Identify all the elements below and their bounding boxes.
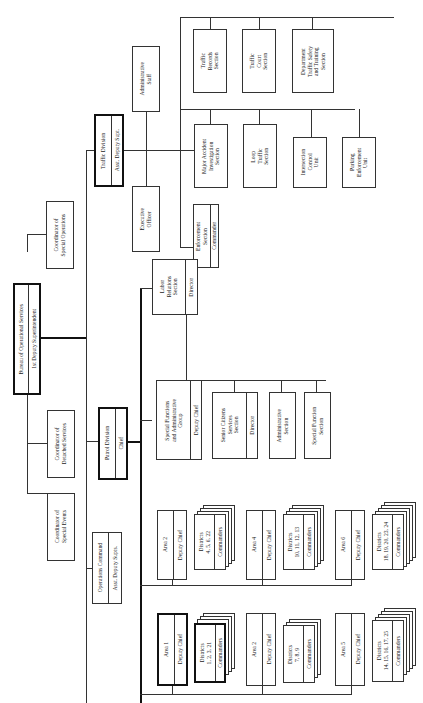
coordinator-detached-services-box: Coordinator of Detached Services (47, 410, 75, 478)
major-accident-investigation-box: Major Accident Investigation Section (194, 124, 228, 188)
connector (140, 288, 142, 703)
connector (312, 17, 313, 29)
connector (41, 337, 86, 339)
commanders-label: Commanders (217, 527, 224, 557)
traffic-division-subtitle: Asst. Deputy Supt. (114, 129, 121, 171)
districts-box: Districts 10, 11, 12, 13 Commanders (283, 514, 315, 570)
connector (234, 380, 235, 392)
districts-label: Districts 14, 15, 16, 17, 25 (376, 631, 389, 670)
commanders-label: Commanders (395, 636, 402, 666)
connector (359, 109, 360, 137)
executive-officer-box: Executive Officer (132, 186, 160, 252)
area-name: Area 1 (163, 642, 170, 657)
major-accident-investigation-label: Major Accident Investigation Section (201, 139, 221, 174)
districts-box: Districts 18, 19, 20, 23, 24 Commanders (372, 514, 404, 570)
traffic-division-title: Traffic Division (100, 133, 107, 169)
traffic-safety-training-section-label: Department Traffic Safety and Training S… (300, 46, 326, 77)
connector (262, 686, 263, 694)
labor-relations-title: Labor Relations Section (159, 276, 179, 297)
enforcement-section-subtitle: Commander (211, 222, 218, 250)
area-name: Area 4 (251, 537, 258, 552)
area-box: Area 5 Deputy Chief (335, 613, 365, 686)
administrative-staff-label: Administrative Staff (139, 62, 152, 96)
connector (124, 150, 204, 151)
connector (210, 109, 211, 124)
area-name: Area 5 (340, 642, 347, 657)
coordinator-special-events-label: Coordinator of Special Events (54, 510, 67, 543)
area-name: Area 2 (162, 537, 169, 552)
districts-box: Districts 1, 2, 3, 21 Commanders (194, 623, 226, 683)
connector (259, 17, 260, 29)
area-box: Area 2 Deputy Chief (157, 510, 187, 580)
traffic-records-section-box: Traffic Records Section (193, 29, 227, 93)
area-box: Area 4 Deputy Chief (246, 510, 276, 580)
senior-citizens-subtitle: Director (249, 416, 256, 435)
traffic-division-box: Traffic Division Asst. Deputy Supt. (94, 114, 124, 187)
connector (351, 686, 352, 694)
connector (172, 686, 173, 694)
administrative-staff-box: Administrative Staff (132, 46, 160, 112)
executive-officer-label: Executive Officer (139, 208, 152, 230)
connector (27, 443, 47, 444)
root-title: Bureau of Operational Services (18, 304, 25, 374)
connector (86, 150, 94, 151)
special-functions-group-box: Special Functions and Administrative Gro… (156, 380, 202, 460)
traffic-records-section-label: Traffic Records Section (200, 52, 220, 70)
operations-command-title: Operations Command (97, 543, 104, 592)
districts-label: Districts 4, 5, 6, 22 (198, 531, 211, 553)
parking-enforcement-unit-label: Parking Enforcement Unit (349, 148, 369, 177)
connector (140, 694, 352, 695)
loop-traffic-section-box: Loop Traffic Section (243, 124, 277, 188)
districts-label: Districts 7, 8, 9 (287, 645, 300, 664)
districts-box: Districts 7, 8, 9 Commanders (283, 625, 315, 683)
area-head: Deputy Chief (355, 530, 362, 560)
area-box: Area 6 Deputy Chief (335, 510, 365, 580)
connector (210, 17, 211, 29)
connector (180, 109, 355, 110)
area-box: Area 1 Deputy Chief (157, 613, 188, 686)
senior-citizens-title: Senior Citizens Services Section (220, 408, 240, 442)
patrol-division-subtitle: Chief (118, 437, 125, 449)
intersection-control-unit-box: Intersection Control Unit (293, 137, 327, 188)
bureau-of-operational-services-box: Bureau of Operational Services 1st Deput… (13, 283, 41, 395)
connector (27, 493, 47, 494)
coordinator-special-events-box: Coordinator of Special Events (47, 493, 75, 561)
connector (140, 420, 152, 421)
area-head: Deputy Chief (177, 530, 184, 560)
root-subtitle: 1st Deputy Superintendent (31, 309, 38, 369)
intersection-control-unit-label: Intersection Control Unit (300, 149, 320, 175)
area-head: Deputy Chief (266, 634, 273, 664)
senior-citizens-services-section-box: Senior Citizens Services Section Directo… (212, 392, 258, 459)
connector (186, 380, 326, 381)
connector (281, 380, 282, 392)
special-functions-group-subtitle: Deputy Chief (193, 405, 200, 435)
area-head: Deputy Chief (266, 530, 273, 560)
districts-label: Districts 10, 11, 12, 13 (287, 527, 300, 558)
connector (140, 585, 352, 586)
special-function-section-label: Special Function Section (311, 407, 324, 445)
traffic-court-section-box: Traffic Court Section (242, 29, 276, 93)
area-name: Area 6 (340, 537, 347, 552)
special-function-section-box: Special Function Section (304, 392, 331, 459)
connector (180, 17, 181, 247)
coordinator-special-operations-box: Coordinator of Special Operations (46, 201, 74, 269)
commanders-label: Commanders (217, 638, 224, 668)
area-box: Area 2 Deputy Chief (246, 613, 276, 686)
connector (140, 288, 152, 289)
enforcement-section-title: Enforcement Section (195, 222, 208, 251)
area-name: Area 2 (251, 642, 258, 657)
connector (128, 441, 140, 443)
districts-label: Districts 18, 19, 20, 23, 24 (376, 522, 389, 561)
traffic-safety-training-section-box: Department Traffic Safety and Training S… (292, 29, 334, 93)
patrol-division-title: Patrol Division (104, 426, 111, 460)
area-head: Deputy Chief (355, 634, 362, 664)
connector (86, 441, 98, 442)
connector (86, 150, 87, 703)
connector (27, 234, 28, 252)
coordinator-special-operations-label: Coordinator of Special Operations (53, 214, 66, 256)
loop-traffic-section-label: Loop Traffic Section (250, 148, 270, 165)
commanders-label: Commanders (395, 527, 402, 557)
traffic-court-section-label: Traffic Court Section (249, 53, 269, 70)
coordinator-detached-services-label: Coordinator of Detached Services (54, 423, 67, 464)
commanders-label: Commanders (306, 639, 313, 669)
